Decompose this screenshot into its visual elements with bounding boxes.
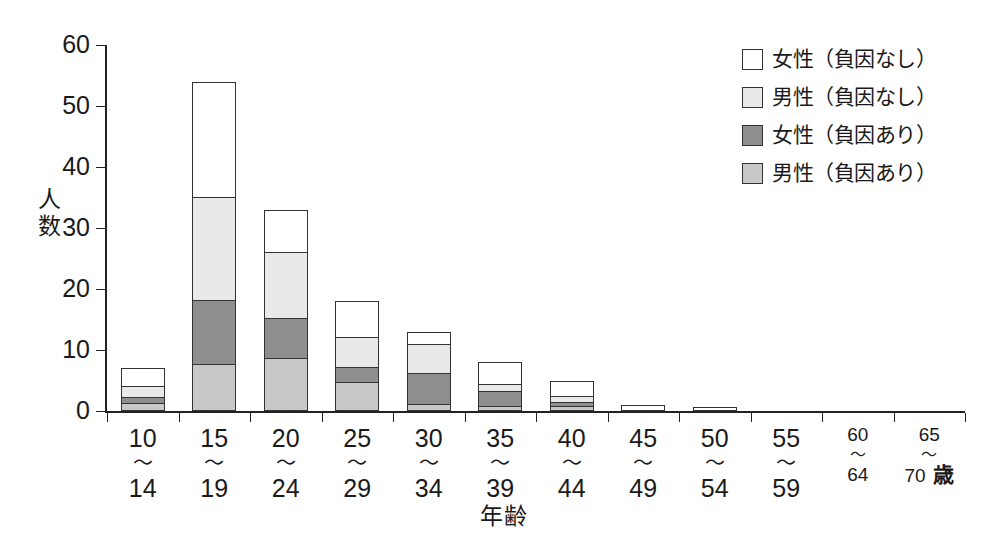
bar-stack[interactable] (335, 301, 379, 411)
bar-segment[interactable] (479, 385, 521, 392)
x-label-range-separator: 〜 (679, 452, 751, 474)
bar-segment[interactable] (408, 333, 450, 345)
bar-segment[interactable] (122, 387, 164, 399)
legend-item[interactable]: 女性（負因なし） (742, 40, 992, 78)
legend-item[interactable]: 女性（負因あり） (742, 116, 992, 154)
x-label-range-start: 45 (608, 424, 680, 452)
legend-label: 男性（負因あり） (772, 163, 936, 184)
bar-segment[interactable] (551, 382, 593, 397)
x-label-range-start: 15 (179, 424, 251, 452)
x-tick-mark (393, 413, 394, 422)
y-tick-mark (96, 106, 105, 107)
x-label-range-start: 60 (822, 424, 894, 446)
x-label-range-start: 55 (751, 424, 823, 452)
x-tick-mark (894, 413, 895, 422)
y-tick-label: 40 (44, 154, 90, 179)
x-tick-mark (465, 413, 466, 422)
legend-label: 女性（負因なし） (772, 49, 936, 70)
x-tick-label: 25〜29 (322, 424, 394, 502)
bar-stack[interactable] (407, 332, 451, 411)
bar-group (693, 45, 737, 411)
x-tick-label: 20〜24 (250, 424, 322, 502)
bar-stack[interactable] (550, 381, 594, 412)
x-label-range-start: 65 (894, 424, 966, 446)
bar-segment[interactable] (408, 405, 450, 410)
bar-segment[interactable] (336, 338, 378, 368)
y-tick-mark (96, 350, 105, 351)
bar-segment[interactable] (265, 359, 307, 410)
x-tick-mark (965, 413, 966, 422)
x-label-range-separator: 〜 (608, 452, 680, 474)
x-label-range-end: 64 (822, 464, 894, 486)
bar-segment[interactable] (336, 383, 378, 410)
x-axis-line (105, 411, 965, 413)
x-label-range-separator: 〜 (393, 452, 465, 474)
bar-group (621, 45, 665, 411)
x-tick-mark (536, 413, 537, 422)
legend-item[interactable]: 男性（負因あり） (742, 154, 992, 192)
x-label-range-separator: 〜 (179, 452, 251, 474)
bar-segment[interactable] (122, 404, 164, 410)
bar-segment[interactable] (193, 198, 235, 301)
x-tick-mark (250, 413, 251, 422)
bar-segment[interactable] (408, 345, 450, 375)
x-tick-label: 65〜70 歳 (894, 424, 966, 487)
legend-swatch-icon (742, 125, 763, 146)
bar-segment[interactable] (551, 407, 593, 410)
bar-segment[interactable] (479, 392, 521, 407)
legend-item[interactable]: 男性（負因なし） (742, 78, 992, 116)
x-tick-label: 60〜64 (822, 424, 894, 486)
x-label-range-start: 35 (465, 424, 537, 452)
bar-group (192, 45, 236, 411)
bar-segment[interactable] (479, 407, 521, 410)
bar-chart: 人数 0102030405060 10〜1415〜1920〜2425〜2930〜… (0, 0, 1007, 554)
bar-segment[interactable] (479, 363, 521, 385)
bar-segment[interactable] (265, 253, 307, 319)
x-label-range-separator: 〜 (894, 446, 966, 464)
x-tick-label: 45〜49 (608, 424, 680, 502)
bar-group (121, 45, 165, 411)
x-tick-mark (179, 413, 180, 422)
x-label-range-separator: 〜 (107, 452, 179, 474)
x-label-range-end: 70 歳 (894, 464, 966, 487)
x-label-range-separator: 〜 (536, 452, 608, 474)
legend-swatch-icon (742, 87, 763, 108)
bar-stack[interactable] (621, 405, 665, 411)
legend-swatch-icon (742, 163, 763, 184)
bar-segment[interactable] (193, 301, 235, 365)
bar-segment[interactable] (336, 368, 378, 383)
bar-group (550, 45, 594, 411)
bar-segment[interactable] (193, 83, 235, 198)
x-label-range-start: 10 (107, 424, 179, 452)
x-label-range-start: 30 (393, 424, 465, 452)
x-label-range-separator: 〜 (465, 452, 537, 474)
bar-segment[interactable] (336, 302, 378, 338)
bar-segment[interactable] (408, 374, 450, 405)
x-axis-title: 年齢 (0, 497, 1007, 531)
bar-stack[interactable] (693, 407, 737, 411)
bar-stack[interactable] (121, 368, 165, 411)
y-tick-label: 50 (44, 93, 90, 118)
x-tick-label: 55〜59 (751, 424, 823, 502)
legend-label: 女性（負因あり） (772, 125, 936, 146)
bar-segment[interactable] (193, 365, 235, 410)
x-tick-mark (322, 413, 323, 422)
y-tick-mark (96, 167, 105, 168)
bar-stack[interactable] (264, 210, 308, 411)
bar-segment[interactable] (122, 369, 164, 386)
bar-group (264, 45, 308, 411)
bar-segment[interactable] (694, 408, 736, 410)
y-tick-mark (96, 411, 105, 412)
bar-stack[interactable] (192, 82, 236, 411)
y-tick-label: 20 (44, 276, 90, 301)
y-tick-mark (96, 45, 105, 46)
bar-stack[interactable] (478, 362, 522, 411)
legend-label: 男性（負因なし） (772, 87, 936, 108)
bar-segment[interactable] (265, 211, 307, 253)
x-label-range-start: 25 (322, 424, 394, 452)
x-label-range-start: 40 (536, 424, 608, 452)
x-tick-mark (679, 413, 680, 422)
x-tick-mark (822, 413, 823, 422)
bar-segment[interactable] (265, 319, 307, 358)
bar-segment[interactable] (622, 406, 664, 410)
